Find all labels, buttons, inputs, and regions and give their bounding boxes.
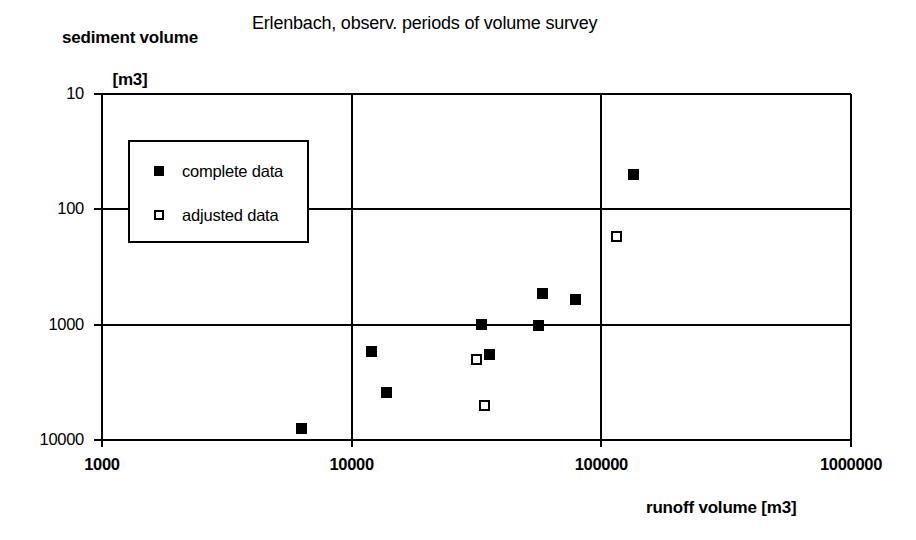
x-tick [850, 440, 852, 447]
data-point [628, 169, 639, 180]
data-point [484, 349, 495, 360]
data-point [471, 354, 482, 365]
x-tick-label: 10000 [287, 455, 417, 474]
y-tick-label: 10000 [0, 430, 84, 449]
x-tick-label: 1000 [37, 455, 167, 474]
data-point [611, 231, 622, 242]
legend-item-adjusted-data: adjusted data [130, 204, 307, 226]
data-point [296, 423, 307, 434]
y-gridline [102, 439, 851, 441]
data-point [381, 387, 392, 398]
data-point [366, 346, 377, 357]
y-tick-label: 1000 [0, 315, 84, 334]
chart-title: Erlenbach, observ. periods of volume sur… [252, 13, 597, 34]
y-tick [94, 208, 102, 210]
x-tick [101, 440, 103, 447]
open-square-icon [154, 210, 164, 220]
x-tick-label: 100000 [536, 455, 666, 474]
x-axis-title: runoff volume [m3] [646, 498, 796, 518]
x-gridline [600, 94, 602, 440]
y-tick-label: 10 [0, 84, 84, 103]
legend-label-complete-data: complete data [182, 162, 283, 181]
legend: complete data adjusted data [128, 140, 309, 243]
x-tick-label: 1000000 [786, 455, 916, 474]
y-gridline [102, 93, 851, 95]
filled-square-icon [154, 166, 164, 176]
data-point [533, 320, 544, 331]
x-gridline [850, 94, 852, 440]
y-tick [94, 324, 102, 326]
data-point [570, 294, 581, 305]
y-tick-label: 100 [0, 199, 84, 218]
x-tick [351, 440, 353, 447]
y-tick [94, 439, 102, 441]
chart-canvas: sediment volume [m3] Erlenbach, observ. … [0, 0, 916, 540]
x-tick [600, 440, 602, 447]
y-axis-title-line1: sediment volume [22, 27, 238, 48]
legend-label-adjusted-data: adjusted data [182, 206, 278, 225]
legend-item-complete-data: complete data [130, 160, 307, 182]
data-point [479, 400, 490, 411]
data-point [537, 288, 548, 299]
x-gridline [101, 94, 103, 440]
data-point [476, 319, 487, 330]
y-tick [94, 93, 102, 95]
x-gridline [351, 94, 353, 440]
